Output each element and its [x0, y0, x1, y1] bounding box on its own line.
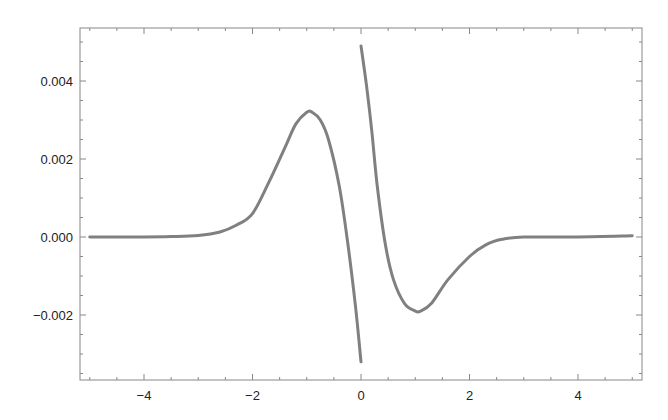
x-tick-label: 4 [574, 388, 581, 403]
x-tick-label: 0 [357, 388, 364, 403]
curve-right-branch [361, 46, 632, 312]
y-tick-label: 0.002 [40, 152, 73, 167]
x-tick-label: −4 [137, 388, 152, 403]
x-axis-tick-labels: −4−2024 [137, 388, 582, 403]
y-tick-label: 0.004 [40, 74, 73, 89]
y-tick-label: 0.000 [40, 230, 73, 245]
y-axis-tick-labels: 0.0040.0020.000−0.002 [33, 74, 73, 323]
data-series [90, 46, 633, 362]
x-tick-label: −2 [245, 388, 260, 403]
y-tick-label: −0.002 [33, 308, 73, 323]
curve-left-branch [90, 111, 361, 362]
axis-ticks [80, 28, 642, 380]
line-chart: −4−2024 0.0040.0020.000−0.002 [0, 0, 668, 420]
x-tick-label: 2 [466, 388, 473, 403]
plot-frame [80, 28, 642, 380]
